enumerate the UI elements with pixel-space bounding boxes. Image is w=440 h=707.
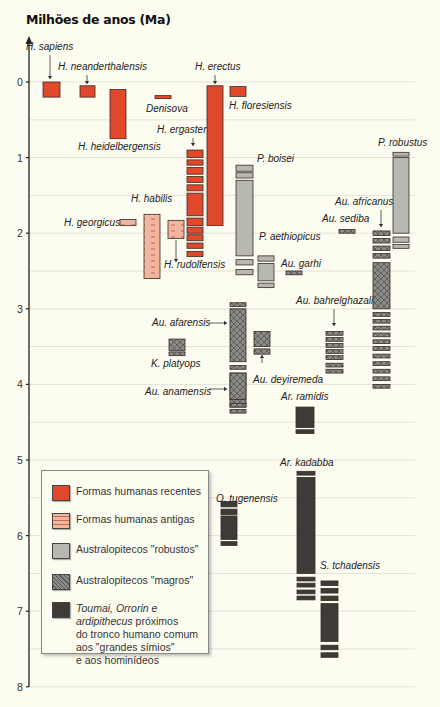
bar-segment	[321, 645, 338, 650]
bar-segment	[230, 409, 246, 413]
bar-segment	[321, 596, 338, 601]
species-label-h-erectus: H. erectus	[195, 61, 241, 72]
species-label-h-habilis: H. habilis	[131, 193, 172, 204]
bar-segment	[373, 326, 390, 330]
bar-segment	[321, 604, 338, 642]
species-bar-au-deyiremeda	[254, 331, 270, 354]
species-label-p-boisei: P. boisei	[257, 153, 295, 164]
bar-segment	[373, 254, 390, 259]
bar-segment	[326, 344, 343, 348]
bar-segment	[339, 229, 355, 233]
species-bar-au-garhi	[286, 271, 302, 275]
y-tick-label: 0	[17, 76, 23, 88]
species-bar-h-erectus	[207, 86, 223, 226]
species-label-au-africanus: Au. africanus	[334, 196, 393, 207]
bar-segment	[373, 354, 390, 358]
bar-segment	[230, 87, 246, 97]
species-bar-h-habilis	[144, 214, 160, 278]
bar-segment	[187, 160, 203, 165]
species-label-h-sapiens: H. sapiens	[26, 41, 73, 52]
bar-segment	[321, 653, 338, 658]
bar-segment	[258, 263, 274, 280]
bar-segment	[236, 269, 253, 274]
species-bar-h-neanderthalensis	[80, 86, 95, 97]
species-bar-h-sapiens	[43, 82, 60, 97]
species-label-h-neanderthalensis: H. neanderthalensis	[58, 61, 147, 72]
legend-box: Formas humanas recentes Formas humanas a…	[41, 470, 209, 654]
arrow-icon	[191, 143, 195, 146]
y-tick-label: 4	[17, 378, 23, 390]
species-label-ar-kadabba: Ar. kadabba	[279, 457, 334, 468]
species-label-p-robustus: P. robustus	[378, 137, 427, 148]
legend-swatch-ancestral-icon	[52, 602, 70, 618]
species-label-au-sediba: Au. sediba	[321, 213, 370, 224]
bar-segment	[230, 403, 246, 407]
species-label-au-anamensis: Au. anamensis	[144, 386, 211, 397]
species-label-denisova: Denisova	[146, 103, 188, 114]
bar-segment	[326, 369, 343, 373]
bar-segment	[236, 173, 253, 178]
bar-segment	[144, 214, 160, 278]
bar-segment	[373, 362, 390, 366]
bar-segment	[110, 90, 126, 139]
species-label-s-tchadensis: S. tchadensis	[320, 560, 380, 571]
arrow-icon	[332, 323, 336, 326]
species-bar-h-floresiensis	[230, 87, 246, 97]
bar-segment	[393, 237, 409, 242]
y-axis: 012345678	[17, 36, 32, 693]
bar-segment	[187, 251, 203, 256]
bar-segment	[187, 167, 203, 174]
legend-item-ancient: Formas humanas antigas	[52, 513, 194, 529]
bar-segment	[254, 349, 270, 354]
bar-segment	[373, 347, 390, 351]
bar-segment	[258, 283, 274, 288]
arrow-icon	[224, 321, 227, 325]
bar-segment	[326, 350, 343, 354]
legend-swatch-gracile-icon	[52, 574, 70, 590]
species-bar-au-bahrelghazali	[326, 331, 343, 373]
bar-segment	[187, 185, 203, 191]
bar-segment	[373, 384, 390, 388]
legend-item-ancestral: Toumai, Orrorin e ardipithecus próximos …	[52, 602, 198, 667]
species-bar-ar-ramidis	[296, 407, 314, 433]
y-tick-label: 2	[17, 227, 23, 239]
bar-segment	[296, 430, 314, 434]
bar-segment	[155, 96, 171, 99]
legend-item-recent: Formas humanas recentes	[52, 485, 201, 501]
bar-segment	[236, 180, 253, 256]
bar-segment	[373, 333, 390, 337]
bar-segment	[207, 86, 223, 226]
species-bar-k-platyops	[169, 339, 185, 356]
bar-segment	[373, 231, 390, 236]
bar-segment	[120, 220, 136, 226]
y-tick-label: 8	[17, 681, 23, 693]
legend-item-gracile: Australopitecos "magros"	[52, 574, 193, 590]
bar-segment	[236, 165, 253, 171]
species-bar-au-africanus	[373, 231, 390, 388]
bar-segment	[187, 150, 203, 158]
bar-segment	[43, 82, 60, 97]
legend-swatch-robust-icon	[52, 543, 70, 559]
y-tick-label: 3	[17, 303, 23, 315]
bar-segment	[187, 227, 203, 233]
legend-item-robust: Australopitecos "robustos"	[52, 543, 198, 559]
species-bar-p-boisei	[236, 165, 253, 275]
species-label-k-platyops: K. platyops	[151, 358, 200, 369]
bar-segment	[187, 235, 203, 241]
arrow-icon	[213, 81, 217, 84]
species-label-p-aethiopicus: P. aethiopicus	[259, 231, 321, 242]
species-bar-h-heidelbergensis	[110, 90, 126, 139]
bar-segment	[373, 238, 390, 243]
species-label-au-deyiremeda: Au. deyiremeda	[252, 374, 323, 385]
bar-segment	[373, 246, 390, 251]
bar-segment	[297, 477, 315, 573]
bar-segment	[373, 377, 390, 381]
bar-segment	[286, 271, 302, 275]
y-tick-label: 6	[17, 530, 23, 542]
bar-segment	[297, 596, 315, 600]
species-bar-p-aethiopicus	[258, 256, 274, 288]
bar-segment	[258, 256, 274, 261]
bar-segment	[254, 331, 270, 346]
legend-swatch-ancient-icon	[52, 513, 70, 529]
bar-segment	[230, 366, 246, 370]
